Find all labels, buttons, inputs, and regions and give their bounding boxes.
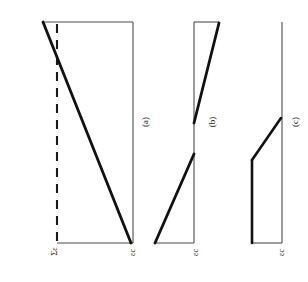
panel-caption-c: (c) bbox=[290, 111, 300, 133]
panel-b-lower-strain-profile bbox=[155, 154, 194, 243]
panel-caption-a: (a) bbox=[140, 111, 150, 133]
panel-a-strain-profile bbox=[43, 22, 131, 243]
strain-diagram-svg bbox=[0, 0, 308, 282]
figure-root: (a) (b) (c) Σε εc εc εc bbox=[0, 0, 308, 282]
panel-a-group bbox=[43, 22, 133, 243]
panel-caption-b: (b) bbox=[207, 111, 217, 133]
panel-c-group bbox=[251, 22, 282, 243]
panel-c-linear-strain-profile bbox=[252, 118, 281, 160]
axis-label-sigma-epsilon: Σε bbox=[50, 243, 59, 261]
axis-label-epsilon-c-panel-a: εc bbox=[128, 244, 137, 262]
axis-label-epsilon-c-panel-c: εc bbox=[277, 244, 286, 262]
axis-label-epsilon-c-panel-b: εc bbox=[191, 244, 200, 262]
panel-b-upper-strain-profile bbox=[194, 23, 219, 123]
